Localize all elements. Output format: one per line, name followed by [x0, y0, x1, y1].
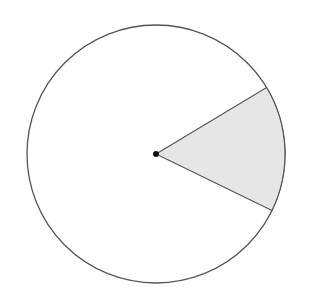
circle-sector-diagram [0, 0, 315, 295]
center-point [153, 151, 159, 157]
